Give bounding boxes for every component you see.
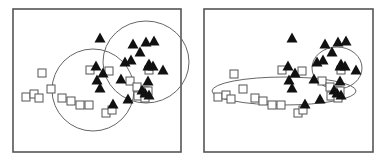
square-marker-icon: [85, 101, 93, 109]
square-marker-icon: [230, 70, 238, 78]
square-marker-icon: [38, 69, 46, 77]
square-marker-icon: [227, 95, 235, 103]
square-marker-icon: [251, 94, 259, 102]
square-marker-icon: [76, 101, 84, 109]
square-marker-icon: [35, 94, 43, 102]
square-marker-icon: [58, 94, 66, 102]
square-marker-icon: [67, 97, 75, 105]
square-marker-icon: [268, 101, 276, 109]
square-marker-icon: [47, 85, 55, 93]
square-marker-icon: [259, 97, 267, 105]
square-marker-icon: [22, 93, 30, 101]
square-marker-icon: [277, 101, 285, 109]
square-marker-icon: [298, 67, 306, 75]
left-scatter-panel: [13, 9, 189, 152]
square-marker-icon: [318, 77, 326, 85]
square-marker-icon: [214, 93, 222, 101]
scatter-figure: [0, 0, 387, 156]
right-scatter-panel: [204, 9, 373, 152]
square-marker-icon: [239, 85, 247, 93]
